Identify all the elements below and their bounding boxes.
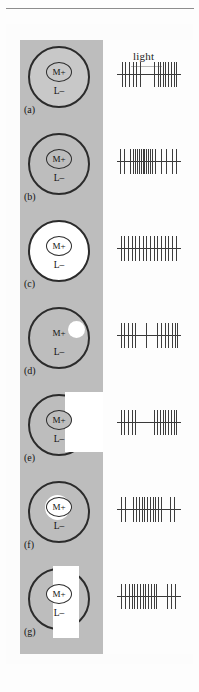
- spike-mark: [128, 410, 129, 435]
- spike-mark: [177, 323, 178, 348]
- spike-train: [103, 566, 193, 645]
- surround-label: L–: [42, 86, 76, 96]
- spike-mark: [146, 323, 147, 348]
- spike-mark: [163, 62, 164, 87]
- spike-mark: [154, 410, 155, 435]
- spike-mark: [124, 149, 125, 174]
- spike-mark: [157, 323, 158, 348]
- spike-mark: [150, 497, 151, 522]
- spike-mark: [124, 410, 125, 435]
- spike-mark: [128, 323, 129, 348]
- spike-mark: [121, 323, 122, 348]
- spike-mark: [171, 62, 172, 87]
- spike-mark: [174, 410, 175, 435]
- spike-mark: [163, 410, 164, 435]
- spike-mark: [122, 62, 123, 87]
- spike-mark: [144, 497, 145, 522]
- spike-mark: [120, 149, 121, 174]
- panel-tag: (d): [24, 365, 36, 376]
- spike-mark: [165, 62, 166, 87]
- spike-mark: [128, 236, 129, 261]
- receptive-field-wrap: M+L–: [28, 133, 96, 201]
- panel-tag: (c): [24, 278, 35, 289]
- spike-mark: [172, 149, 173, 174]
- center-label: M+: [46, 150, 72, 168]
- spike-mark: [172, 323, 173, 348]
- spike-mark: [168, 410, 169, 435]
- spike-mark: [160, 62, 161, 87]
- spike-mark: [161, 323, 162, 348]
- spike-mark: [176, 62, 177, 87]
- spike-mark: [121, 497, 122, 522]
- spike-mark: [139, 236, 140, 261]
- panel-tag: (b): [24, 191, 36, 202]
- center-label: M+: [46, 585, 72, 603]
- spike-mark: [143, 584, 144, 609]
- spike-mark: [152, 149, 153, 174]
- receptive-field-wrap: M+L–: [28, 481, 96, 549]
- spike-mark: [142, 497, 143, 522]
- spike-mark: [129, 584, 130, 609]
- center-label: M+: [46, 411, 72, 429]
- spike-mark: [176, 236, 177, 261]
- spike-train: [103, 305, 193, 384]
- spike-mark: [154, 62, 155, 87]
- panel-tag: (f): [24, 539, 34, 550]
- spike-mark: [133, 62, 134, 87]
- spike-mark: [136, 497, 137, 522]
- spike-mark: [160, 410, 161, 435]
- surround-label: L–: [42, 608, 76, 618]
- spike-mark: [150, 236, 151, 261]
- spike-mark: [146, 236, 147, 261]
- spike-mark: [125, 62, 126, 87]
- spike-train: [103, 218, 193, 297]
- spike-mark: [129, 62, 130, 87]
- spike-mark: [168, 62, 169, 87]
- center-label: M+: [46, 63, 72, 81]
- receptive-field-wrap: M+L–: [28, 307, 96, 375]
- receptive-field-wrap: M+L–: [28, 46, 96, 114]
- spike-mark: [133, 497, 134, 522]
- figure-root: light M+L–(a)M+L–(b)M+L–(c)M+L–(d)M+L–(e…: [0, 0, 199, 692]
- spike-mark: [161, 149, 162, 174]
- spike-mark: [135, 236, 136, 261]
- spike-mark: [139, 497, 140, 522]
- spike-mark: [155, 149, 156, 174]
- spike-mark: [154, 584, 155, 609]
- spike-mark: [140, 584, 141, 609]
- spike-mark: [153, 497, 154, 522]
- spike-mark: [171, 410, 172, 435]
- spike-mark: [165, 410, 166, 435]
- spike-mark: [167, 584, 168, 609]
- spike-mark: [147, 497, 148, 522]
- spike-mark: [140, 62, 141, 87]
- receptive-field-wrap: M+L–: [28, 568, 96, 636]
- spike-mark: [171, 584, 172, 609]
- spike-mark: [154, 236, 155, 261]
- spike-mark: [130, 149, 131, 174]
- spike-mark: [172, 236, 173, 261]
- receptive-field-wrap: M+L–: [28, 220, 96, 288]
- spike-mark: [161, 497, 162, 522]
- spike-mark: [121, 236, 122, 261]
- spike-mark: [145, 584, 146, 609]
- panel-tag: (g): [24, 626, 36, 637]
- spike-mark: [170, 497, 171, 522]
- spike-mark: [132, 410, 133, 435]
- center-label: M+: [46, 324, 72, 342]
- spike-mark: [165, 323, 166, 348]
- surround-label: L–: [42, 434, 76, 444]
- spike-mark: [124, 236, 125, 261]
- panel-tag: (e): [24, 452, 35, 463]
- spike-mark: [136, 62, 137, 87]
- spike-mark: [132, 323, 133, 348]
- spike-mark: [135, 323, 136, 348]
- spike-mark: [168, 236, 169, 261]
- spike-mark: [176, 149, 177, 174]
- spike-train: [103, 44, 193, 123]
- spike-mark: [157, 410, 158, 435]
- spike-mark: [134, 584, 135, 609]
- spike-mark: [137, 584, 138, 609]
- spike-mark: [175, 323, 176, 348]
- spike-mark: [168, 323, 169, 348]
